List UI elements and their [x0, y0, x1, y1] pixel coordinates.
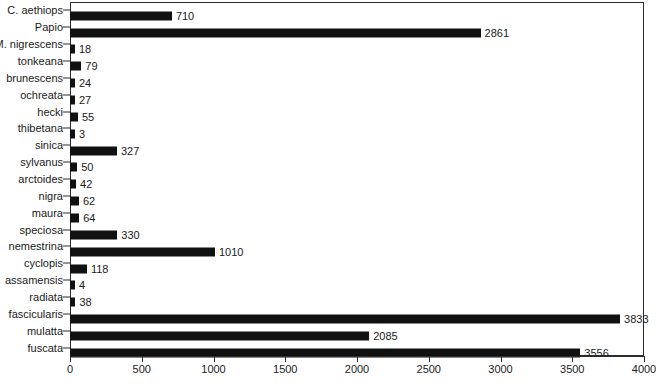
category-label: C. aethiops	[7, 5, 70, 16]
bar-with-value: 3833	[70, 309, 649, 318]
bar-with-value: 27	[70, 90, 91, 99]
x-tick-mark	[501, 356, 502, 362]
bar-with-value: 3556	[70, 343, 609, 352]
x-tick-mark	[142, 356, 143, 362]
bar-with-value: 4	[70, 276, 85, 285]
bar-row: C. aethiops710	[0, 2, 651, 19]
bar-with-value: 3	[70, 124, 85, 133]
y-tick-mark	[63, 44, 70, 45]
bar-row: hecki55	[0, 103, 651, 120]
x-tick-mark	[285, 356, 286, 362]
bar-with-value: 62	[70, 191, 95, 200]
x-tick-label: 4000	[632, 364, 656, 375]
x-tick-label: 3000	[488, 364, 512, 375]
bar-row: fascicularis3833	[0, 305, 651, 322]
y-tick-mark	[63, 111, 70, 112]
x-tick-mark	[70, 356, 71, 362]
bar-with-value: 79	[70, 56, 98, 65]
y-tick-mark	[63, 178, 70, 179]
category-label: nemestrina	[9, 241, 70, 252]
bar-row: arctoides42	[0, 171, 651, 188]
x-tick-mark	[357, 356, 358, 362]
y-tick-mark	[63, 212, 70, 213]
y-tick-mark	[63, 347, 70, 348]
y-tick-mark	[63, 246, 70, 247]
bar-with-value: 64	[70, 208, 95, 217]
bar-row: tonkeana79	[0, 53, 651, 70]
x-tick-label: 3500	[560, 364, 584, 375]
bar-row: brunescens24	[0, 69, 651, 86]
y-tick-mark	[63, 280, 70, 281]
bar-with-value: 330	[70, 225, 140, 234]
bar-row: nigra62	[0, 187, 651, 204]
category-label: fascicularis	[9, 308, 70, 319]
category-label: M. nigrescens	[0, 39, 70, 50]
y-tick-mark	[63, 296, 70, 297]
y-tick-mark	[63, 162, 70, 163]
bar-with-value: 2085	[70, 326, 398, 335]
x-tick-mark	[429, 356, 430, 362]
y-tick-mark	[63, 145, 70, 146]
x-tick-mark	[644, 356, 645, 362]
bar-row: mulatta2085	[0, 322, 651, 339]
x-tick-label: 1500	[273, 364, 297, 375]
bar-row: M. nigrescens18	[0, 36, 651, 53]
x-axis: 05001000150020002500300035004000	[70, 356, 644, 388]
bar-row: thibetana3	[0, 120, 651, 137]
bar-with-value: 710	[70, 6, 194, 15]
bar-row: assamensis4	[0, 272, 651, 289]
bar-row: maura64	[0, 204, 651, 221]
bar-row: sinica327	[0, 137, 651, 154]
y-tick-mark	[63, 313, 70, 314]
y-tick-mark	[63, 229, 70, 230]
x-tick-label: 0	[67, 364, 73, 375]
bar-with-value: 118	[70, 259, 108, 268]
y-tick-mark	[63, 60, 70, 61]
y-tick-mark	[63, 10, 70, 11]
y-tick-mark	[63, 195, 70, 196]
x-tick-mark	[214, 356, 215, 362]
bar-row: ochreata27	[0, 86, 651, 103]
bar-row: speciosa330	[0, 221, 651, 238]
x-tick-label: 1000	[201, 364, 225, 375]
bar-with-value: 18	[70, 40, 91, 49]
y-tick-mark	[63, 330, 70, 331]
bar-with-value: 24	[70, 73, 91, 82]
category-label: brunescens	[6, 72, 70, 83]
bar-row: Papio2861	[0, 19, 651, 36]
y-tick-mark	[63, 94, 70, 95]
x-tick-mark	[572, 356, 573, 362]
y-tick-mark	[63, 77, 70, 78]
x-tick-label: 500	[133, 364, 151, 375]
x-tick-label: 2500	[417, 364, 441, 375]
bar-row: fuscata3556	[0, 339, 651, 356]
bar-row: cyclopis118	[0, 255, 651, 272]
bar-with-value: 55	[70, 107, 94, 116]
bar-with-value: 327	[70, 141, 139, 150]
bar-row: nemestrina1010	[0, 238, 651, 255]
bar-with-value: 42	[70, 174, 92, 183]
bar-with-value: 50	[70, 158, 93, 167]
bar-rows: C. aethiops710Papio2861M. nigrescens18to…	[0, 2, 651, 356]
y-tick-mark	[63, 27, 70, 28]
category-label: assamensis	[5, 275, 70, 286]
bar-with-value: 1010	[70, 242, 243, 251]
bar-row: radiata38	[0, 289, 651, 306]
y-tick-mark	[63, 128, 70, 129]
y-tick-mark	[63, 263, 70, 264]
x-tick-label: 2000	[345, 364, 369, 375]
bar-row: sylvanus50	[0, 154, 651, 171]
bar-with-value: 2861	[70, 23, 509, 32]
bar-with-value: 38	[70, 292, 92, 301]
